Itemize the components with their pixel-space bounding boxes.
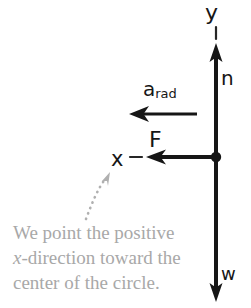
caption-line-1: We point the positive	[13, 220, 213, 245]
radial-acceleration-label-base: a	[143, 77, 155, 101]
caption-pointer-arrowhead	[102, 172, 110, 186]
caption-line-2: x-direction toward the	[13, 245, 213, 270]
radial-acceleration-label: arad	[143, 79, 177, 100]
caption-line-3: center of the circle.	[13, 270, 213, 295]
x-axis-label: x	[111, 149, 123, 170]
origin-dot	[211, 152, 221, 162]
radial-acceleration-label-subscript: rad	[155, 86, 177, 101]
caption-pointer-curve	[86, 178, 106, 219]
caption-line-2-rest: -direction toward the	[21, 247, 180, 268]
y-axis-label: y	[205, 2, 218, 24]
net-force-label: F	[149, 129, 162, 151]
weight-label: w	[221, 265, 236, 283]
normal-force-label: n	[221, 68, 234, 88]
caption-text: We point the positive x-direction toward…	[13, 220, 213, 295]
figure-canvas: y n w x F arad We point the positive x-d…	[0, 0, 251, 308]
